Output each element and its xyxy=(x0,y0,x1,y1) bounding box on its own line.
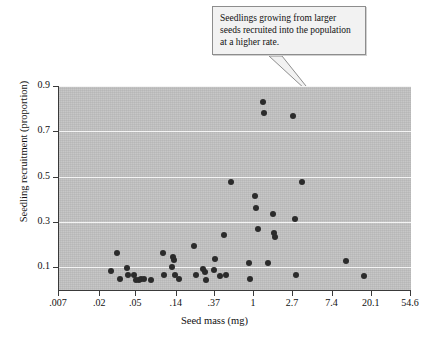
annotation-callout: Seedlings growing from larger seeds recr… xyxy=(212,6,366,55)
data-point xyxy=(260,99,266,105)
data-point xyxy=(193,272,199,278)
data-point xyxy=(255,226,261,232)
data-point xyxy=(191,243,197,249)
x-tick-label-2.7: 2.7 xyxy=(272,297,312,308)
data-point xyxy=(252,193,258,199)
data-point xyxy=(217,273,223,279)
x-tick-mark xyxy=(253,291,254,296)
gridline-0.7 xyxy=(59,131,411,132)
x-tick-label-.05: .05 xyxy=(115,297,155,308)
data-point xyxy=(169,264,175,270)
data-point xyxy=(253,205,259,211)
y-tick-mark xyxy=(53,177,58,178)
data-point xyxy=(141,276,147,282)
x-tick-mark xyxy=(292,291,293,296)
scatter-plot-figure: Seedlings growing from larger seeds recr… xyxy=(0,0,429,345)
data-point xyxy=(211,267,217,273)
y-tick-label-0.1: 0.1 xyxy=(16,261,50,271)
x-tick-mark xyxy=(371,291,372,296)
data-point xyxy=(148,277,154,283)
data-point xyxy=(343,258,349,264)
data-point xyxy=(161,272,167,278)
x-tick-mark xyxy=(99,291,100,296)
annotation-text: Seedlings growing from larger seeds recr… xyxy=(220,13,351,47)
y-tick-mark xyxy=(53,86,58,87)
data-point xyxy=(361,273,367,279)
y-tick-label-0.5: 0.5 xyxy=(16,171,50,181)
data-point xyxy=(221,232,227,238)
y-tick-mark xyxy=(53,222,58,223)
x-tick-label-54.6: 54.6 xyxy=(390,297,429,308)
y-tick-mark xyxy=(53,131,58,132)
x-tick-label-.02: .02 xyxy=(79,297,119,308)
x-tick-mark xyxy=(135,291,136,296)
data-point xyxy=(292,216,298,222)
data-point xyxy=(247,276,253,282)
panel-texture xyxy=(59,86,411,290)
x-tick-label-.007: .007 xyxy=(38,297,78,308)
data-point xyxy=(108,268,114,274)
y-tick-label-0.7: 0.7 xyxy=(16,125,50,135)
x-tick-label-20.1: 20.1 xyxy=(351,297,391,308)
data-point xyxy=(202,269,208,275)
data-point xyxy=(299,179,305,185)
data-point xyxy=(290,113,296,119)
x-tick-label-.14: .14 xyxy=(156,297,196,308)
gridline-0.3 xyxy=(59,222,411,223)
data-point xyxy=(176,276,182,282)
x-tick-label-.37: .37 xyxy=(194,297,234,308)
data-point xyxy=(261,110,267,116)
y-tick-mark xyxy=(53,267,58,268)
data-point xyxy=(272,234,278,240)
data-point xyxy=(228,179,234,185)
x-tick-label-1: 1 xyxy=(233,297,273,308)
x-tick-mark xyxy=(58,291,59,296)
y-tick-label-0.3: 0.3 xyxy=(16,216,50,226)
data-point xyxy=(293,272,299,278)
data-point xyxy=(265,260,271,266)
x-tick-label-7.4: 7.4 xyxy=(312,297,352,308)
data-point xyxy=(212,256,218,262)
x-tick-mark xyxy=(410,291,411,296)
plot-panel xyxy=(58,86,411,291)
x-tick-mark xyxy=(176,291,177,296)
data-point xyxy=(246,260,252,266)
y-axis-label: Seedling recruitment (proportion) xyxy=(18,37,29,267)
data-point xyxy=(171,257,177,263)
data-point xyxy=(270,211,276,217)
x-axis-label: Seed mass (mg) xyxy=(0,315,429,326)
data-point xyxy=(160,250,166,256)
gridline-0.5 xyxy=(59,177,411,178)
gridline-0.9 xyxy=(59,86,411,87)
y-tick-label-0.9: 0.9 xyxy=(16,80,50,90)
x-tick-mark xyxy=(214,291,215,296)
x-tick-mark xyxy=(332,291,333,296)
data-point xyxy=(124,265,130,271)
data-point xyxy=(114,250,120,256)
data-point xyxy=(117,276,123,282)
data-point xyxy=(223,272,229,278)
data-point xyxy=(203,277,209,283)
